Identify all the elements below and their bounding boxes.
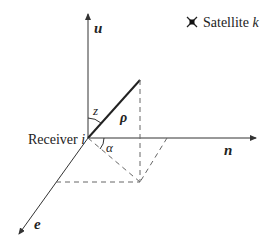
- rho-label: ρ: [119, 110, 127, 125]
- enu-geometry-diagram: u n e ρ z α Receiver i Satellite k: [0, 0, 274, 247]
- receiver-label: Receiver i: [28, 132, 85, 147]
- azimuth-arc: [100, 138, 104, 149]
- diagram-svg: u n e ρ z α Receiver i Satellite k: [0, 0, 274, 247]
- satellite-icon: [187, 17, 197, 27]
- projection-lines: [56, 80, 167, 182]
- zenith-arc: [88, 118, 101, 123]
- azimuth-label: α: [106, 140, 114, 155]
- n-axis-label: n: [224, 142, 232, 158]
- zenith-label: z: [92, 103, 98, 118]
- satellite-legend-label: Satellite k: [203, 15, 259, 30]
- e-axis-label: e: [34, 216, 41, 232]
- e-axis: [19, 138, 88, 234]
- u-axis-label: u: [94, 20, 102, 36]
